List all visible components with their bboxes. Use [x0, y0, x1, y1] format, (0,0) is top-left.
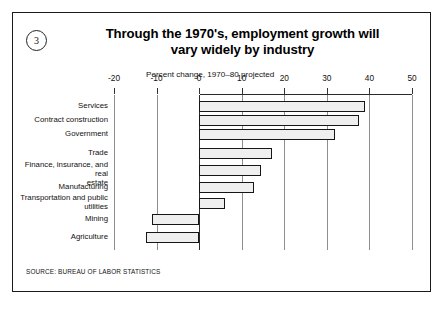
category-label: Services — [18, 102, 108, 111]
axis-caption: Percent change, 1970–80 projected — [146, 70, 274, 79]
category-label-line: Agriculture — [18, 233, 108, 242]
top-axis-rule — [200, 94, 412, 95]
chart-title-line-1: Through the 1970's, employment growth wi… — [70, 26, 415, 42]
bar — [199, 148, 271, 159]
bar — [199, 165, 261, 176]
x-tick-label--20: -20 — [108, 73, 120, 83]
category-label-line: Finance, insurance, and real — [18, 161, 108, 178]
category-label-line: Trade — [18, 149, 108, 158]
category-label-line: Mining — [18, 215, 108, 224]
bar — [199, 182, 254, 193]
category-label: Transportation and publicutilities — [18, 194, 108, 211]
x-tick-label-10: 10 — [237, 73, 246, 83]
x-tick-label-0: 0 — [197, 73, 202, 83]
chart-title: Through the 1970's, employment growth wi… — [70, 26, 415, 58]
x-tick-30 — [327, 88, 328, 94]
category-label-line: Government — [18, 130, 108, 139]
category-label: Mining — [18, 215, 108, 224]
bar — [199, 198, 225, 209]
category-label: Agriculture — [18, 233, 108, 242]
x-tick-label-30: 30 — [322, 73, 331, 83]
figure-container: 3 Through the 1970's, employment growth … — [0, 0, 448, 317]
category-label-list: ServicesContract constructionGovernmentT… — [18, 95, 108, 250]
category-label-line: utilities — [18, 203, 108, 212]
category-label-line: Services — [18, 102, 108, 111]
gridline-40 — [369, 95, 370, 250]
x-tick-0 — [199, 88, 200, 94]
source-note: SOURCE: BUREAU OF LABOR STATISTICS — [26, 268, 160, 275]
bar — [199, 101, 365, 112]
category-label: Contract construction — [18, 116, 108, 125]
x-tick-10 — [242, 88, 243, 94]
x-tick--10 — [157, 88, 158, 94]
gridline-50 — [412, 95, 413, 250]
bar — [199, 129, 335, 140]
x-tick-20 — [284, 88, 285, 94]
x-tick-label-40: 40 — [365, 73, 374, 83]
bar — [152, 214, 199, 225]
gridline--10 — [157, 95, 158, 250]
figure-number-label: 3 — [34, 35, 39, 46]
x-tick-label-20: 20 — [280, 73, 289, 83]
x-tick-label--10: -10 — [151, 73, 163, 83]
plot-area: -20-1001020304050 — [114, 95, 412, 250]
figure-number-badge: 3 — [26, 30, 47, 51]
gridline--20 — [114, 95, 115, 250]
category-label: Trade — [18, 149, 108, 158]
category-label: Government — [18, 130, 108, 139]
bar — [199, 115, 359, 126]
chart-title-line-2: vary widely by industry — [70, 42, 415, 58]
x-tick-label-50: 50 — [407, 73, 416, 83]
bar — [146, 232, 199, 243]
category-label-line: Manufacturing — [18, 183, 108, 192]
category-label: Manufacturing — [18, 183, 108, 192]
category-label-line: Contract construction — [18, 116, 108, 125]
x-tick-40 — [369, 88, 370, 94]
x-tick-50 — [412, 88, 413, 94]
x-tick--20 — [114, 88, 115, 94]
